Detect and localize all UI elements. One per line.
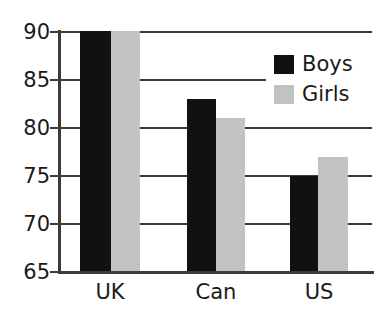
legend-swatch-girls-icon — [274, 85, 294, 104]
bar-can-boys — [187, 99, 216, 272]
legend-swatch-boys-icon — [274, 55, 294, 74]
y-axis-label-65: 65 — [4, 262, 50, 283]
y-axis-label-70: 70 — [4, 214, 50, 235]
legend-item-boys: Boys — [274, 54, 353, 75]
y-tick-75 — [50, 175, 62, 177]
bar-us-girls — [318, 157, 348, 272]
legend-item-girls: Girls — [274, 84, 350, 105]
y-tick-70 — [50, 223, 62, 225]
bar-chart-figure: 90 85 80 75 70 65 UK Can US Boys Girls — [0, 0, 389, 321]
y-axis-line — [58, 30, 61, 274]
y-tick-85 — [50, 79, 62, 81]
x-axis-line — [58, 271, 374, 274]
x-axis-label-can: Can — [176, 282, 256, 303]
bar-can-girls — [216, 118, 245, 272]
y-axis-label-85: 85 — [4, 70, 50, 91]
y-axis-label-80: 80 — [4, 118, 50, 139]
legend: Boys Girls — [268, 52, 372, 114]
bar-us-boys — [290, 176, 318, 272]
x-axis-label-uk: UK — [70, 282, 150, 303]
cropped-title-artifact — [0, 0, 389, 6]
y-tick-80 — [50, 127, 62, 129]
y-axis-label-75: 75 — [4, 166, 50, 187]
bar-uk-girls — [111, 31, 140, 272]
bar-uk-boys — [80, 31, 111, 272]
y-axis-label-90: 90 — [4, 22, 50, 43]
x-axis-label-us: US — [279, 282, 359, 303]
y-tick-90 — [50, 31, 62, 33]
legend-label-girls: Girls — [302, 84, 350, 105]
y-tick-65 — [50, 271, 62, 273]
legend-label-boys: Boys — [302, 54, 353, 75]
